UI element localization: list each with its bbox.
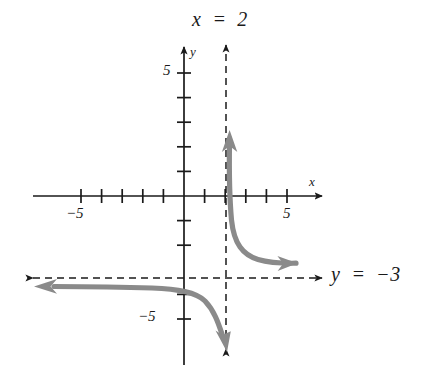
graph-figure: x = 2 y = −3 x y 5 −5 −5 5 <box>0 0 429 376</box>
graph-canvas <box>0 0 429 376</box>
curve-group <box>34 130 296 352</box>
hyperbola-right-branch <box>229 143 296 263</box>
y-tick-label-5: 5 <box>163 62 171 79</box>
y-axis-label: y <box>190 44 196 60</box>
vertical-asymptote-label: x = 2 <box>192 8 248 31</box>
horizontal-asymptote-label: y = −3 <box>331 263 401 286</box>
x-axis-label: x <box>309 174 315 190</box>
asymptotes-group <box>33 45 322 349</box>
y-tick-label-minus-5: −5 <box>138 308 156 325</box>
x-tick-label-minus-5: −5 <box>66 205 84 222</box>
x-tick-label-5: 5 <box>283 205 291 222</box>
